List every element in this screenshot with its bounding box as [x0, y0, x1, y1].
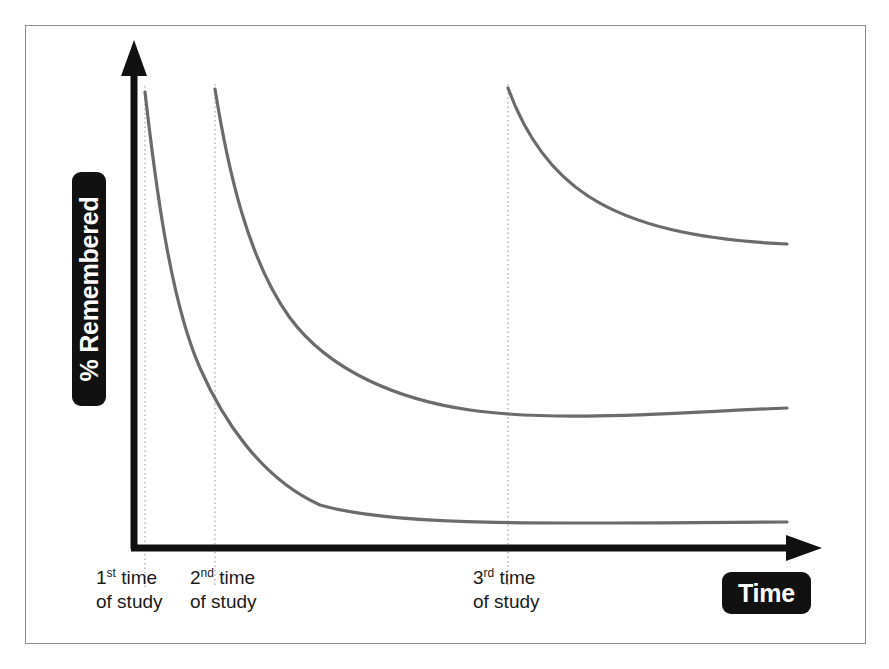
tick-2-line2: of study: [190, 590, 257, 614]
x-axis-label-badge: Time: [722, 572, 811, 614]
y-axis: [121, 40, 147, 549]
x-axis: [131, 535, 822, 561]
y-axis-label-text: % Remembered: [75, 196, 104, 381]
y-axis-arrowhead: [121, 40, 147, 76]
tick-3-line2: of study: [473, 590, 540, 614]
curve-after-2nd-study: [215, 89, 787, 416]
y-axis-label-badge: % Remembered: [72, 172, 106, 406]
x-axis-arrowhead: [786, 535, 822, 561]
tick-1-line1-rest: time: [116, 567, 157, 588]
tick-1-ordinal-suffix: st: [107, 566, 116, 580]
curve-after-1st-study: [145, 92, 787, 523]
forgetting-curve-figure: % Remembered Time 1st time of study 2nd …: [0, 0, 889, 669]
curve-after-3rd-study: [508, 88, 787, 244]
tick-3-line1-rest: time: [494, 567, 535, 588]
curves: [145, 88, 787, 523]
tick-label-1st-study: 1st time of study: [96, 566, 163, 614]
tick-2-line1-rest: time: [214, 567, 255, 588]
tick-3-ordinal: 3: [473, 567, 484, 588]
x-axis-label-text: Time: [738, 579, 795, 608]
tick-2-ordinal-suffix: nd: [201, 566, 214, 580]
tick-label-3rd-study: 3rd time of study: [473, 566, 540, 614]
tick-1-ordinal: 1: [96, 567, 107, 588]
tick-label-2nd-study: 2nd time of study: [190, 566, 257, 614]
tick-3-ordinal-suffix: rd: [484, 566, 495, 580]
tick-2-ordinal: 2: [190, 567, 201, 588]
tick-1-line2: of study: [96, 590, 163, 614]
guide-lines: [145, 84, 508, 588]
